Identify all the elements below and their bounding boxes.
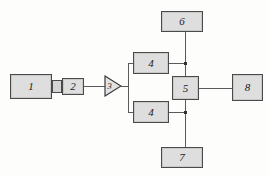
block-7-label: 7 — [179, 152, 185, 163]
block-4-bottom[interactable]: 4 — [133, 101, 169, 123]
block-8[interactable]: 8 — [232, 74, 263, 101]
amplifier-label: 3 — [104, 75, 122, 97]
wire-block5-to-block7 — [185, 100, 186, 147]
junction-dot-upper — [184, 62, 187, 65]
block-1-label: 1 — [28, 81, 34, 92]
amplifier-block-3[interactable]: 3 — [104, 75, 122, 97]
block-5-label: 5 — [183, 83, 189, 94]
block-8-label: 8 — [245, 82, 251, 93]
block-2[interactable]: 2 — [62, 78, 84, 95]
block-6-label: 6 — [179, 16, 185, 27]
wire-block6-to-block5 — [185, 32, 186, 77]
wire-splitter-bus — [128, 63, 129, 113]
block-1[interactable]: 1 — [10, 74, 52, 99]
wire-block2-to-amp — [84, 86, 105, 87]
block-2-label: 2 — [70, 81, 76, 92]
wire-block5-to-block8 — [199, 88, 232, 89]
block-4-top-label: 4 — [148, 58, 154, 69]
coupler-nub — [52, 80, 62, 93]
block-diagram-canvas: 3 1 2 4 4 5 6 7 8 — [0, 0, 268, 177]
block-5[interactable]: 5 — [172, 76, 199, 100]
block-4-top[interactable]: 4 — [133, 52, 169, 74]
block-4-bottom-label: 4 — [148, 107, 154, 118]
block-6[interactable]: 6 — [161, 11, 203, 32]
junction-dot-lower — [184, 111, 187, 114]
block-7[interactable]: 7 — [161, 147, 203, 168]
